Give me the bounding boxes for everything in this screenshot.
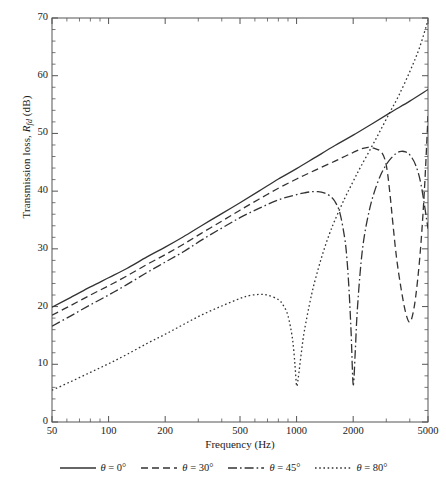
series-group [52,20,428,390]
chart-figure: Transmission loss, Rfd (dB) 010203040506… [0,0,446,492]
axes-frame [52,18,428,422]
y-tick-label: 70 [24,12,48,23]
x-axis-label: Frequency (Hz) [52,438,428,450]
chart-legend: θ = 0°θ = 30°θ = 45°θ = 80° [0,462,446,473]
x-tick-label: 2000 [333,426,373,437]
x-tick-label: 1000 [277,426,317,437]
y-tick-label: 10 [24,358,48,369]
legend-swatch-dotted [314,463,352,473]
legend-item-2[interactable]: θ = 45° [227,462,300,473]
y-tick-label: 30 [24,243,48,254]
legend-item-0[interactable]: θ = 0° [59,462,127,473]
y-tick-label: 60 [24,70,48,81]
plot-area [0,0,446,492]
series-line-2 [52,151,428,385]
legend-label-3: θ = 80° [356,462,387,473]
y-tick-label: 0 [24,416,48,427]
legend-label-2: θ = 45° [269,462,300,473]
y-tick-label: 20 [24,301,48,312]
y-tick-label: 40 [24,185,48,196]
series-line-0 [52,90,428,308]
x-tick-label: 500 [220,426,260,437]
x-tick-label: 5000 [408,426,446,437]
legend-label-0: θ = 0° [101,462,127,473]
x-tick-label: 200 [145,426,185,437]
y-tick-label: 50 [24,127,48,138]
legend-label-1: θ = 30° [182,462,213,473]
x-tick-label: 50 [32,426,72,437]
x-tick-label: 100 [89,426,129,437]
legend-swatch-solid [59,463,97,473]
legend-item-1[interactable]: θ = 30° [140,462,213,473]
legend-item-3[interactable]: θ = 80° [314,462,387,473]
legend-swatch-dashed [140,463,178,473]
series-line-3 [52,20,428,390]
y-axis-tick-labels: 010203040506070 [22,0,48,492]
legend-swatch-dashdot [227,463,265,473]
